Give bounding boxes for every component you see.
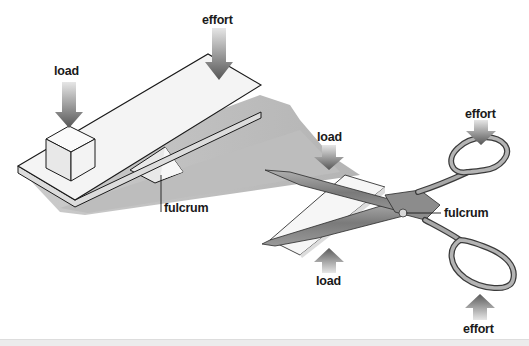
scissors-load-arrow-up-icon [314,248,344,273]
lower-handle-loop [452,240,514,288]
scissors-effort-top-label: effort [465,107,497,121]
scissors-effort-arrow-up-icon [465,294,495,320]
seesaw-effort-label: effort [202,13,234,27]
scissors-fulcrum-label: fulcrum [444,206,489,220]
load-arrow-down-icon [55,82,83,128]
footer-divider [0,339,529,346]
scissors-load-top-label: load [317,130,342,144]
scissors-load-bottom-label: load [316,274,341,288]
seesaw-load-label: load [54,64,79,78]
scissors-effort-bottom-label: effort [463,322,495,336]
pivot-screw [399,209,407,217]
seesaw-fulcrum-label: fulcrum [164,201,209,215]
